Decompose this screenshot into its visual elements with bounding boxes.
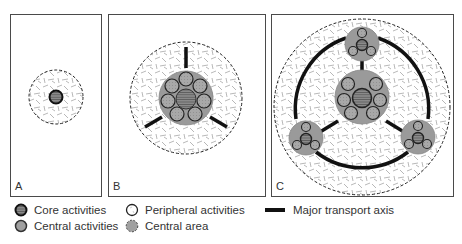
satellite-node-right xyxy=(401,120,435,154)
legend-label: Major transport axis xyxy=(293,204,394,216)
panel-label-c: C xyxy=(276,180,284,192)
central-activities-icon xyxy=(14,219,28,233)
core-activity-b xyxy=(176,89,196,109)
core-activity-a xyxy=(50,91,63,104)
core-activities-icon xyxy=(14,203,28,217)
panel-label-a: A xyxy=(15,180,23,192)
legend-central-activities: Central activities xyxy=(14,219,118,233)
transport-axis-icon xyxy=(265,203,287,217)
satellite-node-top xyxy=(345,27,379,61)
legend-label: Central area xyxy=(145,220,208,232)
panel-c: C xyxy=(272,15,454,197)
legend-label: Peripheral activities xyxy=(145,204,245,216)
legend-core-activities: Core activities xyxy=(14,203,106,217)
legend-peripheral-activities: Peripheral activities xyxy=(125,203,245,217)
legend-label: Central activities xyxy=(34,220,118,232)
central-area-icon xyxy=(125,219,139,233)
peripheral-activities-icon xyxy=(125,203,139,217)
panel-b: B xyxy=(109,15,266,197)
satellite-node-left xyxy=(289,121,323,155)
legend-major-transport-axis: Major transport axis xyxy=(265,203,394,217)
panel-label-b: B xyxy=(113,180,120,192)
legend-central-area: Central area xyxy=(125,219,208,233)
core-activity-c xyxy=(353,89,372,108)
legend-label: Core activities xyxy=(34,204,106,216)
panel-a: A xyxy=(11,15,102,197)
